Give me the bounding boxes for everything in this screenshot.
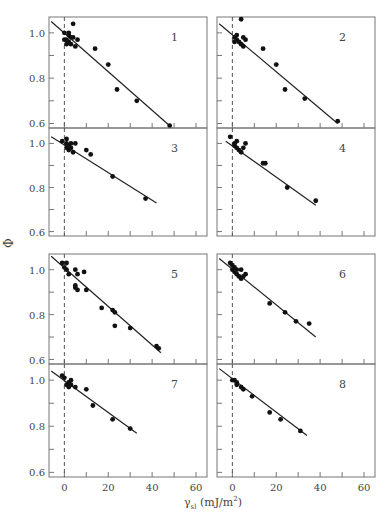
data-point — [261, 46, 266, 51]
data-point — [307, 321, 312, 326]
y-tick-label: 0.6 — [29, 227, 45, 238]
data-point — [75, 37, 80, 42]
data-point — [278, 417, 283, 422]
data-point — [156, 346, 161, 351]
data-point — [66, 30, 71, 35]
panel-8: 02040608 — [217, 364, 375, 493]
data-point — [239, 150, 244, 155]
data-point — [241, 44, 246, 49]
data-point — [302, 96, 307, 101]
x-tick-label: 0 — [229, 482, 235, 493]
data-point — [239, 267, 244, 272]
panel-frame — [217, 364, 375, 477]
data-point — [285, 185, 290, 190]
data-point — [62, 30, 67, 35]
data-point — [143, 196, 148, 201]
data-point — [62, 375, 67, 380]
x-tick-label: 40 — [314, 482, 327, 493]
x-tick-label: 40 — [146, 482, 159, 493]
y-tick-label: 1.0 — [29, 265, 45, 276]
panel-6: 6 — [217, 254, 375, 364]
panel-number-label: 6 — [339, 268, 346, 281]
data-point — [64, 137, 69, 142]
data-point — [294, 319, 299, 324]
data-point — [69, 141, 74, 146]
x-axis-label: γsl (mJ/m2) — [184, 495, 242, 511]
y-tick-label: 0.6 — [29, 118, 45, 129]
data-point — [234, 382, 239, 387]
data-point — [228, 134, 233, 139]
data-point — [64, 267, 69, 272]
panel-7: 0.60.81.002040607 — [29, 364, 207, 493]
data-point — [283, 87, 288, 92]
data-point — [73, 44, 78, 49]
panel-number-label: 8 — [339, 378, 346, 391]
data-point — [115, 87, 120, 92]
data-point — [112, 310, 117, 315]
panel-number-label: 5 — [171, 268, 178, 281]
data-point — [234, 139, 239, 144]
panel-frame — [49, 254, 207, 364]
panel-2: 2 — [217, 17, 375, 128]
x-axis-subscript: sl — [191, 503, 197, 511]
y-tick-label: 0.8 — [29, 310, 45, 321]
data-point — [298, 428, 303, 433]
data-point — [93, 46, 98, 51]
data-point — [69, 382, 74, 387]
data-point — [234, 33, 239, 38]
data-point — [106, 62, 111, 67]
data-point — [128, 326, 133, 331]
y-tick-label: 1.0 — [29, 138, 45, 149]
data-point — [167, 123, 172, 128]
data-point — [250, 394, 255, 399]
data-point — [128, 426, 133, 431]
y-tick-label: 0.6 — [29, 467, 45, 478]
data-point — [73, 267, 78, 272]
data-point — [84, 148, 89, 153]
x-tick-label: 60 — [358, 482, 371, 493]
data-point — [84, 288, 89, 293]
data-point — [267, 410, 272, 415]
data-point — [274, 62, 279, 67]
data-point — [234, 267, 239, 272]
panel-4: 4 — [217, 128, 375, 236]
panel-frame — [217, 128, 375, 236]
data-point — [71, 21, 76, 26]
data-point — [88, 152, 93, 157]
panel-number-label: 4 — [339, 142, 346, 155]
panel-number-label: 1 — [171, 31, 178, 44]
y-tick-label: 1.0 — [29, 375, 45, 386]
data-point — [64, 261, 69, 266]
data-point — [313, 198, 318, 203]
data-point — [66, 272, 71, 277]
y-tick-label: 0.8 — [29, 73, 45, 84]
panel-number-label: 2 — [339, 31, 346, 44]
data-point — [134, 98, 139, 103]
data-point — [84, 387, 89, 392]
panel-3: 0.60.81.03 — [29, 128, 207, 238]
data-point — [112, 323, 117, 328]
x-axis-unit: (mJ/m — [200, 496, 233, 509]
panel-frame — [49, 17, 207, 128]
data-point — [241, 387, 246, 392]
panel-1: 0.60.81.01 — [29, 17, 207, 129]
x-axis-unit-close: ) — [238, 496, 242, 509]
y-axis-label: Φ — [2, 238, 16, 248]
panel-number-label: 7 — [171, 378, 178, 391]
y-tick-label: 0.8 — [29, 421, 45, 432]
y-tick-label: 1.0 — [29, 28, 45, 39]
data-point — [99, 305, 104, 310]
x-tick-label: 60 — [190, 482, 203, 493]
data-point — [90, 403, 95, 408]
x-tick-label: 0 — [61, 482, 67, 493]
data-point — [60, 139, 65, 144]
data-point — [239, 17, 244, 22]
data-point — [110, 417, 115, 422]
data-point — [243, 141, 248, 146]
data-point — [243, 37, 248, 42]
data-point — [73, 385, 78, 390]
data-point — [69, 35, 74, 40]
data-point — [110, 174, 115, 179]
panel-5: 0.60.81.05 — [29, 254, 207, 366]
data-point — [335, 119, 340, 124]
